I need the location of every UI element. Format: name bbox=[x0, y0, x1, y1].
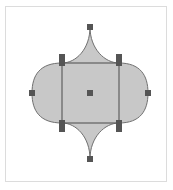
handle-bottom-right[interactable] bbox=[116, 120, 122, 126]
handle-bottom-right-lower[interactable] bbox=[116, 126, 122, 132]
handle-bottom-left[interactable] bbox=[59, 120, 65, 126]
handle-center[interactable] bbox=[87, 90, 93, 96]
handle-bottom[interactable] bbox=[87, 156, 93, 162]
handle-right[interactable] bbox=[145, 90, 151, 96]
handle-top-left-upper[interactable] bbox=[59, 54, 65, 60]
handle-bottom-left-lower[interactable] bbox=[59, 126, 65, 132]
handle-left[interactable] bbox=[29, 90, 35, 96]
handle-top-right-upper[interactable] bbox=[116, 54, 122, 60]
handle-top-left[interactable] bbox=[59, 60, 65, 66]
handle-top[interactable] bbox=[87, 24, 93, 30]
diagram-canvas[interactable] bbox=[0, 0, 173, 190]
handle-top-right[interactable] bbox=[116, 60, 122, 66]
